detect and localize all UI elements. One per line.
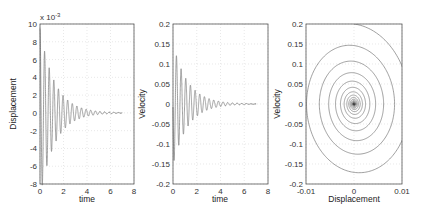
displacement-plot: 02468-8-6-4-20246810 (28, 20, 137, 196)
x-tick-label: 2 (61, 187, 66, 196)
y-tick-label: 0.15 (287, 40, 303, 49)
velocity-plot: 02468-0.2-0.15-0.1-0.0500.050.10.150.2 (152, 20, 271, 196)
y-tick-label: 0.15 (154, 40, 170, 49)
phase-portrait-plot: -0.0100.01-0.2-0.15-0.1-0.0500.050.10.15… (285, 20, 411, 196)
p1-ylabel: Displacement (8, 78, 18, 130)
x-tick-label: 8 (132, 187, 137, 196)
y-tick-label: -4 (30, 144, 38, 153)
y-tick-label: 10 (28, 20, 37, 29)
x-tick-label: 0 (171, 187, 176, 196)
y-tick-label: 6 (33, 56, 38, 65)
y-tick-label: -2 (30, 127, 38, 136)
x-tick-label: 6 (108, 187, 113, 196)
x-tick-label: 0.01 (394, 187, 410, 196)
x-tick-label: 8 (266, 187, 271, 196)
y-tick-label: 0.2 (292, 20, 304, 29)
y-tick-label: 0.1 (159, 60, 171, 69)
p2-ylabel: Velocity (137, 89, 147, 119)
y-tick-label: -0.15 (152, 160, 171, 169)
x-tick-label: 6 (242, 187, 247, 196)
y-tick-label: -8 (30, 180, 38, 189)
y-tick-label: 0.05 (287, 80, 303, 89)
figure: 02468-8-6-4-20246810 02468-0.2-0.15-0.1-… (0, 0, 429, 216)
y-tick-label: 0.2 (159, 20, 171, 29)
x-tick-label: 0 (38, 187, 43, 196)
y-tick-label: 4 (33, 73, 38, 82)
x-tick-label: 2 (195, 187, 200, 196)
y-tick-label: -6 (30, 162, 38, 171)
y-tick-label: 0.05 (154, 80, 170, 89)
y-tick-label: -0.1 (289, 140, 303, 149)
y-tick-label: 0 (166, 100, 171, 109)
y-tick-label: -0.05 (152, 120, 171, 129)
y-tick-label: -0.05 (285, 120, 304, 129)
p3-xlabel: Displacement (328, 194, 380, 204)
y-tick-label: 8 (33, 38, 38, 47)
y-tick-label: 0 (33, 109, 38, 118)
y-tick-label: 2 (33, 91, 38, 100)
p1-exponent: x 10-3 (40, 12, 61, 22)
p3-ylabel: Velocity (272, 89, 282, 119)
y-tick-label: -0.15 (285, 160, 304, 169)
p1-xlabel: time (79, 194, 95, 204)
y-tick-label: 0 (299, 100, 304, 109)
p2-xlabel: time (212, 194, 228, 204)
y-tick-label: 0.1 (292, 60, 304, 69)
y-tick-label: -0.1 (156, 140, 170, 149)
y-tick-label: -0.2 (289, 180, 303, 189)
y-tick-label: -0.2 (156, 180, 170, 189)
